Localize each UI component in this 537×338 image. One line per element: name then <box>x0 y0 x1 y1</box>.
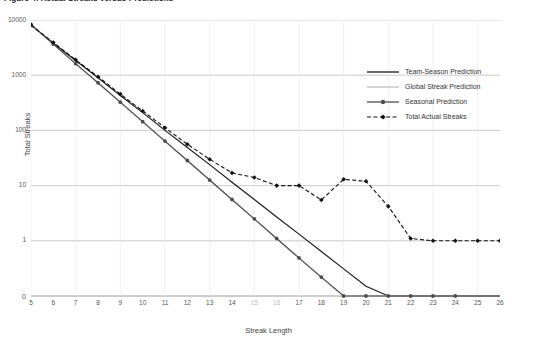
x-axis-tick: 10 <box>132 300 154 307</box>
x-axis-tick: 24 <box>444 300 466 307</box>
x-axis-tick: 15 <box>243 300 265 307</box>
legend-swatch <box>366 97 400 107</box>
x-axis-tick: 21 <box>377 300 399 307</box>
x-axis-title: Streak Length <box>0 326 537 335</box>
x-axis-tick: 7 <box>65 300 87 307</box>
x-axis-tick: 17 <box>288 300 310 307</box>
x-axis-tick: 12 <box>176 300 198 307</box>
legend-item: Total Actual Streaks <box>366 109 481 124</box>
x-axis-tick: 14 <box>221 300 243 307</box>
x-axis-tick: 18 <box>310 300 332 307</box>
legend-swatch <box>366 67 400 77</box>
legend-label: Team-Season Prediction <box>405 68 481 75</box>
legend-label: Seasonal Prediction <box>405 98 467 105</box>
chart-legend: Team-Season PredictionGlobal Streak Pred… <box>366 64 481 124</box>
legend-item: Seasonal Prediction <box>366 94 481 109</box>
x-axis-tick: 26 <box>489 300 511 307</box>
y-axis-title: Total Streaks <box>23 90 32 180</box>
x-axis-tick: 25 <box>467 300 489 307</box>
x-axis-tick: 13 <box>199 300 221 307</box>
x-axis-tick: 16 <box>266 300 288 307</box>
x-axis-tick: 9 <box>109 300 131 307</box>
x-axis-tick: 22 <box>400 300 422 307</box>
x-axis-tick: 11 <box>154 300 176 307</box>
figure-container: Figure 4: Actual Streaks versus Predicti… <box>0 0 537 338</box>
x-axis-tick: 8 <box>87 300 109 307</box>
legend-label: Global Streak Prediction <box>405 83 480 90</box>
legend-item: Team-Season Prediction <box>366 64 481 79</box>
x-axis-tick: 6 <box>42 300 64 307</box>
x-axis-tick: 19 <box>333 300 355 307</box>
legend-swatch <box>366 82 400 92</box>
x-axis-tick: 5 <box>20 300 42 307</box>
x-axis-tick-labels: 567891011121314151617181920212223242526 <box>0 0 537 338</box>
legend-item: Global Streak Prediction <box>366 79 481 94</box>
x-axis-tick: 23 <box>422 300 444 307</box>
x-axis-tick: 20 <box>355 300 377 307</box>
legend-label: Total Actual Streaks <box>405 113 466 120</box>
legend-swatch <box>366 112 400 122</box>
